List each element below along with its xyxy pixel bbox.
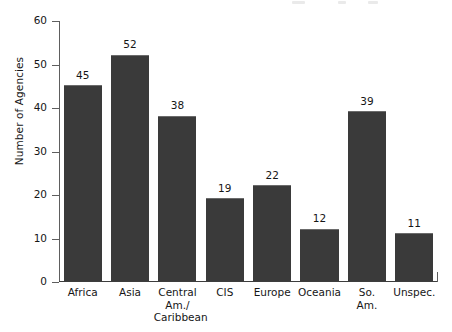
- bar-value-label: 39: [348, 96, 386, 107]
- bar-value-label: 22: [253, 170, 291, 181]
- bar-value-label: 19: [206, 183, 244, 194]
- x-axis-category-label-line: Caribbean: [154, 311, 201, 324]
- y-axis-tick: 20: [52, 195, 59, 196]
- bar-group[interactable]: 11: [395, 21, 433, 281]
- y-axis-line: [59, 21, 60, 282]
- y-axis-tick-label: 10: [34, 232, 47, 244]
- x-axis-category-label-line: Oceania: [296, 286, 343, 299]
- bar-value-label: 11: [395, 218, 433, 229]
- y-axis-tick-label: 20: [34, 188, 47, 200]
- x-axis-category-label-line: Unspec.: [391, 286, 438, 299]
- y-axis-tick: 10: [52, 239, 59, 240]
- y-axis-tick: 60: [52, 21, 59, 22]
- y-axis-tick-label: 0: [40, 275, 47, 287]
- bar-group[interactable]: 39: [348, 21, 386, 281]
- bar-value-label: 52: [111, 39, 149, 50]
- bar-group[interactable]: 19: [206, 21, 244, 281]
- y-axis-tick-label: 30: [34, 145, 47, 157]
- y-axis-tick: 0: [52, 282, 59, 283]
- bar[interactable]: [253, 185, 291, 281]
- bar[interactable]: [395, 233, 433, 281]
- bar-chart: Number of Agencies 0102030405060 4552381…: [0, 0, 452, 332]
- bar[interactable]: [158, 116, 196, 281]
- x-axis-category-label-line: Central: [154, 286, 201, 299]
- x-axis-category-label: Europe: [249, 286, 296, 299]
- x-axis-category-label-line: Europe: [249, 286, 296, 299]
- bar-value-label: 38: [158, 100, 196, 111]
- x-axis-category-label-line: CIS: [201, 286, 248, 299]
- bar-group[interactable]: 52: [111, 21, 149, 281]
- x-axis-category-label: CIS: [201, 286, 248, 299]
- bar-group[interactable]: 12: [300, 21, 338, 281]
- scan-artifact: [368, 1, 378, 4]
- x-axis-category-label-line: Am.: [343, 299, 390, 312]
- bar-group[interactable]: 38: [158, 21, 196, 281]
- x-axis-line: [59, 281, 438, 282]
- x-axis-end-tick: [437, 272, 438, 282]
- y-axis-tick-label: 50: [34, 58, 47, 70]
- y-axis-tick: 30: [52, 152, 59, 153]
- x-axis-category-label: Oceania: [296, 286, 343, 299]
- bar[interactable]: [111, 55, 149, 281]
- bar-group[interactable]: 45: [64, 21, 102, 281]
- bar-value-label: 45: [64, 70, 102, 81]
- bar-value-label: 12: [300, 213, 338, 224]
- x-axis-category-label: Unspec.: [391, 286, 438, 299]
- x-axis-category-label-line: Asia: [106, 286, 153, 299]
- bar[interactable]: [348, 111, 386, 281]
- y-axis-tick: 50: [52, 65, 59, 66]
- x-axis-category-label-line: Africa: [59, 286, 106, 299]
- bar[interactable]: [64, 85, 102, 281]
- scan-artifact: [338, 1, 346, 4]
- plot-area: 0102030405060 4552381922123911 AfricaAsi…: [59, 21, 438, 282]
- scan-artifact-band: [0, 0, 452, 8]
- y-axis-tick: 40: [52, 108, 59, 109]
- x-axis-category-label-line: So.: [343, 286, 390, 299]
- scan-artifact: [292, 1, 305, 4]
- y-axis-tick-label: 40: [34, 101, 47, 113]
- x-axis-category-label-line: Am./: [154, 299, 201, 312]
- x-axis-category-label: Africa: [59, 286, 106, 299]
- x-axis-category-label: Asia: [106, 286, 153, 299]
- bar[interactable]: [300, 229, 338, 281]
- y-axis-title: Number of Agencies: [13, 46, 25, 176]
- bar-group[interactable]: 22: [253, 21, 291, 281]
- x-axis-category-label: CentralAm./Caribbean: [154, 286, 201, 324]
- x-axis-category-label: So.Am.: [343, 286, 390, 311]
- bar[interactable]: [206, 198, 244, 281]
- y-axis-tick-label: 60: [34, 14, 47, 26]
